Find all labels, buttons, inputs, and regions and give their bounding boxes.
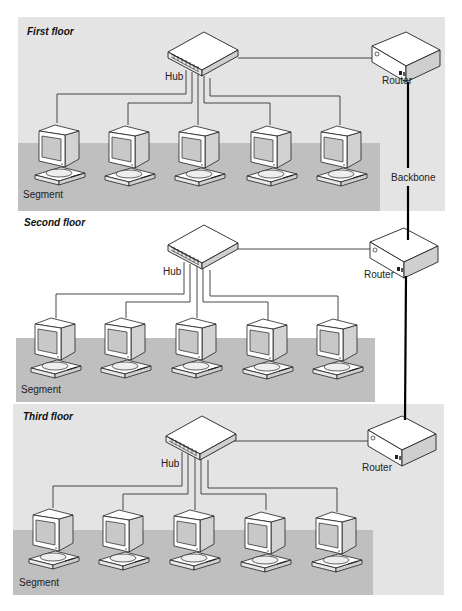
workstation-icon — [99, 510, 149, 570]
hub-label: Hub — [161, 458, 180, 469]
floor-first: First floor Hub Router Segment — [18, 17, 445, 211]
hub-label: Hub — [165, 71, 184, 82]
workstation-icon — [175, 126, 225, 186]
hub-label: Hub — [163, 266, 182, 277]
floor-label: First floor — [27, 26, 75, 37]
network-diagram: First floor Hub Router Segment Second fl… — [0, 0, 462, 611]
workstation-icon — [35, 125, 85, 185]
workstation-icon — [241, 512, 291, 572]
segment-label: Segment — [19, 577, 59, 588]
workstation-icon — [243, 319, 293, 379]
floor-label: Second floor — [24, 217, 86, 228]
workstation-icon — [313, 319, 363, 379]
hub-icon — [168, 225, 238, 269]
workstation-icon — [312, 512, 362, 572]
floor-third: Third floor Hub Router Segment — [13, 404, 444, 595]
workstation-icon — [247, 126, 297, 186]
floor-label: Third floor — [23, 411, 74, 422]
segment-label: Segment — [23, 189, 63, 200]
workstation-icon — [172, 318, 222, 378]
workstation-icon — [31, 318, 81, 378]
router-label: Router — [362, 462, 393, 473]
segment-label: Segment — [21, 384, 61, 395]
floor-second: Second floor Hub Router Segment — [16, 217, 438, 402]
workstation-icon — [170, 510, 220, 570]
workstation-icon — [29, 509, 79, 569]
router-label: Router — [364, 269, 395, 280]
workstation-icon — [105, 126, 155, 186]
workstation-icon — [101, 318, 151, 378]
backbone-label: Backbone — [391, 172, 436, 183]
workstation-icon — [317, 126, 367, 186]
